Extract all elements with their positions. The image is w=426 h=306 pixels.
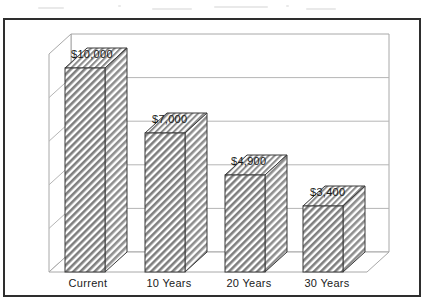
category-label-10-years: 10 Years	[136, 277, 202, 289]
bar-side-face	[185, 113, 207, 272]
scan-speck	[306, 8, 336, 10]
bar-front-face	[225, 175, 265, 272]
bar-10-years[interactable]	[145, 113, 207, 272]
category-label-20-years: 20 Years	[216, 277, 282, 289]
bar-value-label-current: $10,000	[71, 48, 113, 60]
plot-area: $10,000 $7,000 $4,900 $3,400 Current 10 …	[5, 20, 419, 295]
scan-speck	[38, 7, 64, 9]
bar-front-face	[303, 206, 343, 272]
bar-30-years[interactable]	[303, 186, 365, 272]
bar-chart-3d	[5, 20, 419, 295]
scan-speck	[118, 5, 121, 7]
category-label-30-years: 30 Years	[294, 277, 360, 289]
scan-artifact-band	[0, 0, 426, 17]
bar-front-face	[65, 68, 105, 272]
chart-frame: $10,000 $7,000 $4,900 $3,400 Current 10 …	[3, 18, 421, 297]
bar-20-years[interactable]	[225, 155, 287, 272]
scan-speck	[214, 6, 268, 8]
bar-value-label-10-years: $7,000	[152, 113, 187, 125]
scan-speck	[286, 5, 289, 7]
bar-side-face	[265, 155, 287, 272]
bar-current[interactable]	[65, 48, 127, 272]
bar-value-label-20-years: $4,900	[231, 155, 266, 167]
bar-front-face	[145, 133, 185, 272]
bar-side-face	[105, 48, 127, 272]
category-label-current: Current	[55, 277, 121, 289]
scan-speck	[152, 8, 192, 10]
bar-value-label-30-years: $3,400	[310, 186, 345, 198]
